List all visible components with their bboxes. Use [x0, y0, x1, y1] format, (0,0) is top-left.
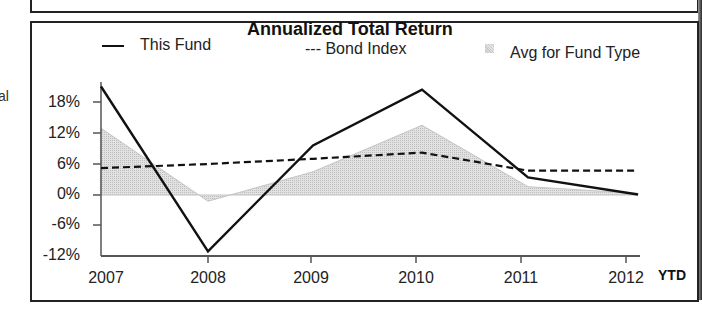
y-axis-ticks [93, 102, 101, 225]
avg-fund-type-area [101, 125, 638, 201]
plot-area [0, 0, 702, 320]
x-axis-ticks [208, 256, 626, 263]
